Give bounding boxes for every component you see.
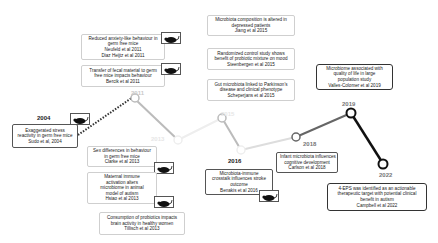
mouse-icon — [161, 63, 181, 75]
event-card-2011-fecal-transfer: Transfer of fecal material to germ free … — [81, 65, 165, 87]
event-card-2015-probiotic-rct: Randomized control study shows benefit o… — [207, 48, 295, 70]
event-card-2015-parkinsons: Gut microbiota linked to Parkinson's dis… — [207, 79, 295, 101]
year-label-2019: 2019 — [342, 101, 355, 107]
mouse-icon — [161, 32, 181, 44]
event-card-2011-anxiety: Reduced anxiety-like behaviour in germ f… — [81, 34, 165, 60]
year-label-2004: 2004 — [37, 115, 50, 121]
mouse-icon — [70, 113, 90, 125]
mouse-icon — [259, 190, 279, 202]
event-card-2004: Exaggerated stress reactivity in germ fr… — [12, 124, 78, 148]
year-label-2015: 2015 — [221, 111, 234, 117]
year-label-2022: 2022 — [379, 172, 392, 178]
year-label-2011: 2011 — [131, 90, 144, 96]
mouse-icon — [154, 196, 174, 208]
year-label-2013: 2013 — [151, 136, 164, 142]
node-2019 — [347, 109, 356, 118]
year-label-2018: 2018 — [303, 141, 316, 147]
event-card-2013-probiotics: Consumption of probiotics impacts brain … — [99, 212, 185, 235]
node-2022 — [379, 160, 388, 169]
mouse-icon — [154, 162, 174, 174]
event-card-2013-maternal-immune: Maternal immune activation alters microb… — [87, 172, 157, 204]
event-card-2019-quality-of-life: Microbiome associated with quality of li… — [316, 64, 393, 90]
event-card-2015-depression: Microbiota composition is altered in dep… — [207, 15, 295, 36]
event-card-2022-4eps: 4-EPS was identified as an actionable th… — [327, 183, 427, 211]
node-2016 — [237, 146, 245, 154]
node-2018 — [292, 133, 300, 141]
event-card-2018-infant: Infant microbiota influences cognitive d… — [276, 152, 338, 173]
timeline-diagram: 2004 2011 2013 2015 2016 2018 2019 2022 … — [0, 0, 438, 243]
node-2013 — [174, 136, 182, 144]
event-card-2013-sex-differences: Sex differences in behaviour in germ fre… — [87, 146, 157, 167]
year-label-2016: 2016 — [228, 158, 241, 164]
